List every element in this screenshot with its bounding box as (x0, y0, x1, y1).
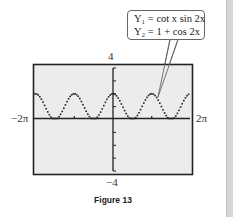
equation-callout: Y₁ = cot x sin 2x Y₂ = 1 + cos 2x (127, 10, 205, 40)
xmax-label: 2π (196, 112, 207, 124)
figure-caption: Figure 13 (0, 195, 226, 205)
xmin-label: −2π (11, 112, 28, 124)
equation-y2: Y₂ = 1 + cos 2x (134, 26, 204, 39)
ymax-label: 4 (108, 50, 114, 62)
equation-y1: Y₁ = cot x sin 2x (134, 13, 204, 26)
ymin-label: −4 (106, 176, 118, 188)
